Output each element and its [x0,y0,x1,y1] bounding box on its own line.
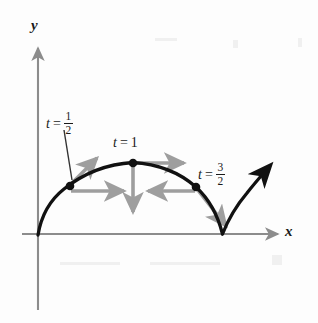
label-t-one-equals: = [120,136,128,150]
figure-canvas [0,0,318,323]
next-arch-curve [223,168,269,234]
label-t-three-halves-denominator: 2 [216,175,224,187]
label-t-half-fraction: 1 2 [64,110,73,136]
label-t-one: t = 1 [113,135,138,150]
label-t-half-variable: t [46,117,50,131]
point-t-one [129,159,138,168]
point-t-half [66,182,75,191]
label-t-three-halves-variable: t [198,168,202,182]
label-t-three-halves-fraction: 3 2 [216,161,225,187]
leader-line-t-half [64,130,72,180]
label-t-half-equals: = [53,117,61,131]
label-t-half: t = 1 2 [46,111,73,137]
label-t-one-variable: t [113,136,117,150]
x-axis-label: x [285,224,293,239]
label-t-three-halves-numerator: 3 [216,161,224,173]
parametric-curve-figure: y x t = 1 2 t = 1 t = 3 2 [0,0,318,323]
y-axis-label: y [31,18,38,33]
label-t-three-halves: t = 3 2 [198,162,225,188]
label-t-half-numerator: 1 [64,110,72,122]
label-t-three-halves-equals: = [205,168,213,182]
label-t-half-denominator: 2 [64,124,72,136]
cycloid-arch-curve [38,163,223,236]
label-t-one-value: 1 [131,136,138,150]
